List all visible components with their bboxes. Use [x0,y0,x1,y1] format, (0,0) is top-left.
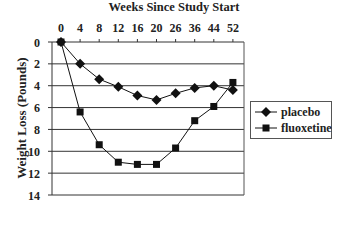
x-tick-label: 16 [131,21,143,35]
data-point-placebo [190,83,200,93]
data-point-fluoxetine [191,117,198,124]
data-point-fluoxetine [77,108,84,115]
square-marker-icon [255,122,277,134]
data-point-fluoxetine [96,141,103,148]
data-point-fluoxetine [210,103,217,110]
data-point-fluoxetine [229,79,236,86]
x-tick-label: 0 [58,21,64,35]
data-point-placebo [171,88,181,98]
y-tick-label: 10 [28,145,40,159]
y-tick-label: 12 [28,167,40,181]
data-point-placebo [132,91,142,101]
chart-legend: placebo fluoxetine [250,101,332,139]
x-tick-label: 12 [112,21,124,35]
data-point-fluoxetine [172,145,179,152]
legend-item-placebo: placebo [255,104,320,120]
data-point-fluoxetine [134,161,141,168]
x-tick-label: 4 [77,21,83,35]
x-tick-label: 26 [170,21,182,35]
data-point-fluoxetine [115,159,122,166]
legend-label: placebo [281,105,320,120]
y-tick-label: 4 [34,79,40,93]
data-point-fluoxetine [153,161,160,168]
x-tick-label: 36 [189,21,201,35]
y-tick-label: 0 [34,36,40,50]
legend-item-fluoxetine: fluoxetine [255,120,332,136]
x-tick-label: 52 [227,21,239,35]
data-point-placebo [94,74,104,84]
y-tick-label: 14 [28,189,40,203]
data-point-placebo [152,95,162,105]
x-tick-label: 8 [96,21,102,35]
data-point-fluoxetine [58,39,65,46]
series-line-placebo [61,42,233,100]
data-point-placebo [209,81,219,91]
y-tick-label: 2 [34,57,40,71]
y-tick-label: 6 [34,101,40,115]
data-point-placebo [113,82,123,92]
x-tick-label: 44 [208,21,220,35]
legend-label: fluoxetine [281,121,332,136]
y-tick-label: 8 [34,123,40,137]
x-tick-label: 20 [151,21,163,35]
y-axis-label: Weight Loss (Pounds) [14,57,29,178]
diamond-marker-icon [255,106,277,118]
series-line-fluoxetine [61,42,233,164]
